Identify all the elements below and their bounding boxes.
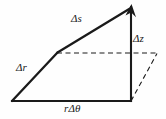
figure-root: Δs Δz Δr rΔθ: [0, 0, 166, 119]
label-delta-r: Δr: [16, 62, 27, 73]
delta-r-segment: [12, 53, 58, 102]
label-r-delta-theta: rΔθ: [64, 103, 80, 114]
label-delta-z: Δz: [133, 33, 144, 44]
diagonal-projection-line: [131, 54, 157, 102]
label-delta-s: Δs: [71, 13, 82, 24]
diagram-canvas: [0, 0, 166, 119]
delta-s-segment: [58, 9, 131, 53]
